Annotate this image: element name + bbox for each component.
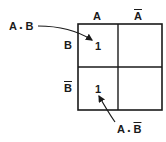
arrow-a-bbar (99, 96, 115, 122)
cell-r1c0: 1 (95, 83, 101, 95)
annotation-a-bbar: A • B (117, 123, 141, 137)
col-header-a-bar: A (134, 10, 142, 22)
cell-r0c0: 1 (95, 40, 101, 52)
annotation-ab: A • B (9, 20, 33, 34)
col-header-a: A (93, 10, 101, 22)
row-header-b: B (64, 39, 72, 51)
arrow-ab (38, 26, 92, 40)
row-header-b-bar: B (64, 82, 72, 94)
